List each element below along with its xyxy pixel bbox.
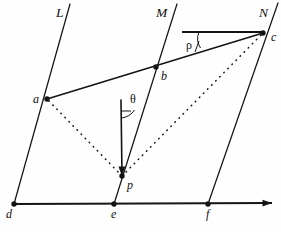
point-dot-e	[111, 201, 116, 206]
line-N	[208, 3, 278, 204]
point-label-e: e	[111, 207, 117, 221]
point-label-d: d	[6, 207, 13, 221]
point-label-f: f	[206, 207, 211, 221]
point-dot-d	[11, 201, 16, 206]
transversal-lines	[14, 3, 278, 204]
angle-rho-tick	[195, 41, 199, 52]
vertex-dots	[11, 30, 265, 206]
base-axis-group	[14, 200, 272, 207]
angle-label-rho: ρ	[186, 38, 192, 52]
angle-rho-arc	[198, 32, 201, 48]
line-label-M: M	[155, 5, 168, 20]
geometry-canvas: L M N a b c d e f p θ ρ	[0, 0, 281, 232]
line-label-L: L	[55, 5, 64, 20]
point-dot-p	[119, 173, 124, 178]
geometry-diagram: L M N a b c d e f p θ ρ	[0, 0, 281, 232]
point-dot-c	[260, 30, 265, 35]
point-label-p: p	[126, 178, 133, 192]
base-axis-line	[14, 203, 272, 204]
line-L	[14, 4, 70, 204]
point-labels: a b c d e f p	[6, 30, 277, 221]
point-dot-b	[153, 64, 158, 69]
base-axis-arrowhead	[262, 200, 272, 207]
point-label-b: b	[161, 69, 167, 83]
dotted-segments-group	[47, 33, 263, 176]
point-label-c: c	[271, 30, 277, 44]
point-dot-f	[205, 201, 210, 206]
point-dot-a	[44, 96, 49, 101]
line-labels: L M N	[55, 5, 269, 20]
angle-label-theta: θ	[130, 92, 136, 106]
line-label-N: N	[258, 5, 269, 20]
point-label-a: a	[33, 92, 39, 106]
dotted-segment-p-a	[47, 99, 122, 176]
